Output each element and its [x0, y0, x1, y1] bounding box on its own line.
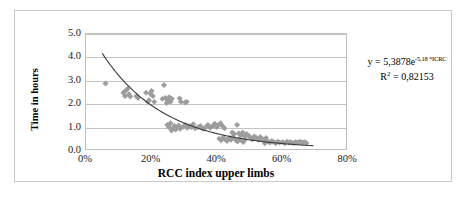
chart-figure: 5.0 4.0 3.0 2.0 1.0 0.0 Time in hours 0%… — [0, 0, 465, 200]
x-tick-1: 20% — [131, 153, 171, 164]
x-axis-title: RCC index upper limbs — [85, 167, 347, 179]
y-axis-title: Time in hours — [29, 63, 43, 137]
data-point — [103, 81, 109, 87]
y-tick-1: 1.0 — [47, 122, 81, 132]
r-squared-label: R2 = 0,82153 — [351, 68, 463, 83]
x-tick-3: 60% — [262, 153, 302, 164]
trendline-path — [102, 53, 313, 145]
equation-exponent: -5,18 *ICRC — [415, 55, 446, 62]
scatter-svg — [86, 34, 346, 149]
r-squared-symbol: R — [380, 72, 387, 83]
data-point — [143, 90, 149, 96]
trendline-annotation: y = 5,3878e-5,18 *ICRC R2 = 0,82153 — [351, 52, 463, 84]
x-axis-tick-labels: 0% 20% 40% 60% 80% — [85, 153, 347, 167]
data-point — [161, 82, 167, 88]
x-tick-4: 80% — [327, 153, 367, 164]
plot-area — [85, 33, 347, 150]
chart-frame: 5.0 4.0 3.0 2.0 1.0 0.0 Time in hours 0%… — [14, 10, 452, 182]
y-tick-4: 4.0 — [47, 51, 81, 61]
y-tick-3: 3.0 — [47, 75, 81, 85]
r-squared-value: = 0,82153 — [391, 72, 434, 83]
y-tick-5: 5.0 — [47, 28, 81, 38]
x-tick-2: 40% — [196, 153, 236, 164]
y-tick-2: 2.0 — [47, 98, 81, 108]
equation-base: y = 5,3878e — [368, 56, 416, 67]
trendline-equation: y = 5,3878e-5,18 *ICRC — [351, 52, 463, 68]
x-tick-0: 0% — [65, 153, 105, 164]
data-point — [234, 122, 240, 128]
data-point — [151, 99, 157, 105]
y-axis-tick-labels: 5.0 4.0 3.0 2.0 1.0 0.0 — [43, 33, 81, 150]
